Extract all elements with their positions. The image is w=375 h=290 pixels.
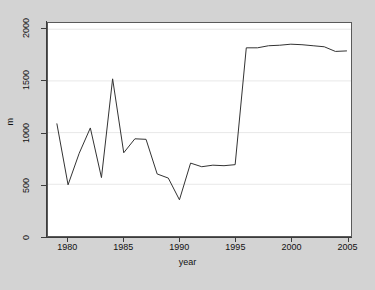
x-tick-label: 2000 xyxy=(271,243,311,252)
y-tick-mark xyxy=(41,237,46,238)
y-tick-label: 2000 xyxy=(22,14,36,42)
y-tick-label: 1000 xyxy=(22,119,36,147)
series-line-m xyxy=(57,44,347,200)
y-tick-mark xyxy=(41,185,46,186)
data-line-series xyxy=(48,23,351,236)
y-tick-mark xyxy=(41,28,46,29)
y-tick-label: 0 xyxy=(22,223,36,251)
y-tick-mark xyxy=(41,80,46,81)
y-tick-label: 1500 xyxy=(22,66,36,94)
x-axis-label: year xyxy=(0,258,375,267)
x-tick-label: 1980 xyxy=(47,243,87,252)
x-tick-label: 2005 xyxy=(328,243,368,252)
x-tick-label: 1985 xyxy=(103,243,143,252)
y-tick-mark xyxy=(41,133,46,134)
y-axis-label: m xyxy=(6,118,15,126)
x-tick-label: 1990 xyxy=(159,243,199,252)
plot-area xyxy=(47,22,352,237)
y-tick-label: 500 xyxy=(22,171,36,199)
x-axis-line xyxy=(46,237,352,238)
chart-figure: 0500100015002000 19801985199019952000200… xyxy=(0,0,375,290)
x-tick-label: 1995 xyxy=(215,243,255,252)
y-axis-line xyxy=(46,21,47,238)
